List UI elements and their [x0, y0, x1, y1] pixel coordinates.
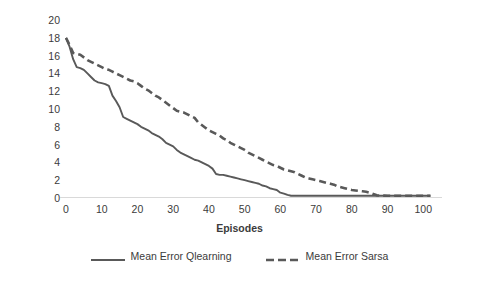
x-axis-line [60, 197, 442, 198]
y-axis-tick-label: 2 [36, 175, 60, 186]
x-axis-tick-label: 90 [368, 203, 408, 216]
legend-dashed-line-icon [266, 251, 300, 261]
y-axis-tick-label: 16 [36, 51, 60, 62]
y-axis-tick-label: 4 [36, 157, 60, 168]
x-axis-tick-label: 80 [332, 203, 372, 216]
y-axis-tick-labels: 02468101214161820 [36, 14, 60, 204]
series-line [66, 38, 430, 196]
chart-container: Mean Error per episode 02468101214161820… [0, 0, 479, 281]
x-axis-tick-label: 20 [117, 203, 157, 216]
legend-solid-line-icon [91, 251, 125, 261]
x-axis-tick-label: 70 [296, 203, 336, 216]
y-axis-tick-label: 10 [36, 104, 60, 115]
chart-legend: Mean Error QlearningMean Error Sarsa [0, 250, 479, 262]
y-axis-tick-label: 6 [36, 140, 60, 151]
y-axis-tick-label: 8 [36, 122, 60, 133]
x-axis-tick-labels: 0102030405060708090100 [66, 203, 434, 219]
x-axis-title: Episodes [0, 222, 479, 234]
x-axis-tick-label: 30 [153, 203, 193, 216]
x-axis-tick-label: 50 [225, 203, 265, 216]
x-axis-tick-label: 40 [189, 203, 229, 216]
y-axis-tick-label: 18 [36, 33, 60, 44]
series-line [66, 38, 430, 196]
plot-svg [66, 20, 434, 198]
x-axis-tick-label: 10 [82, 203, 122, 216]
legend-label: Mean Error Qlearning [131, 250, 232, 262]
legend-entry[interactable]: Mean Error Sarsa [266, 250, 389, 262]
x-axis-tick-label: 100 [403, 203, 443, 216]
y-axis-tick-label: 12 [36, 86, 60, 97]
y-axis-tick-label: 20 [36, 15, 60, 26]
legend-label: Mean Error Sarsa [306, 250, 389, 262]
x-axis-tick-label: 60 [260, 203, 300, 216]
plot-area [66, 20, 434, 198]
legend-entry[interactable]: Mean Error Qlearning [91, 250, 232, 262]
y-axis-tick-label: 14 [36, 68, 60, 79]
x-axis-tick-label: 0 [46, 203, 86, 216]
